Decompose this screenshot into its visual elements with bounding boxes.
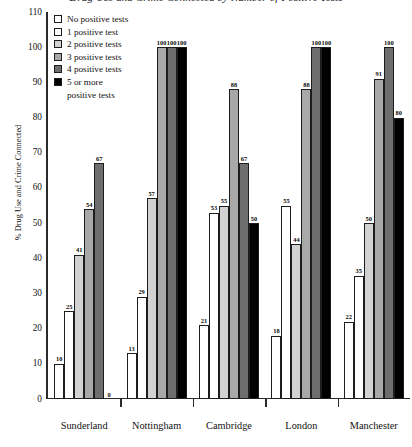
y-tick-label: 40 [14, 254, 42, 263]
bar[interactable] [394, 118, 404, 399]
bar[interactable] [167, 47, 177, 399]
bar-slot: 29 [137, 12, 147, 399]
bar[interactable] [219, 206, 229, 400]
bar-value-label: 29 [138, 288, 144, 295]
x-tick-mark [193, 398, 194, 407]
bar-value-label: 55 [221, 197, 227, 204]
bar[interactable] [374, 79, 384, 399]
y-tick-label: 90 [14, 78, 42, 87]
legend-item[interactable]: 2 positive tests [54, 38, 128, 51]
legend-item[interactable]: 4 positive tests [54, 63, 128, 76]
x-tick-label: Cambridge [193, 420, 265, 431]
bar-value-label: 57 [148, 190, 154, 197]
legend-swatch-icon [54, 15, 62, 23]
bar-slot: 50 [249, 12, 259, 399]
bar-slot: 100 [177, 12, 187, 399]
legend-item[interactable]: No positive tests [54, 13, 128, 26]
bar-value-label: 100 [384, 39, 394, 46]
bar-chart: Drug Use and Crime Connected by Number o… [0, 0, 412, 447]
y-tick-label: 70 [14, 148, 42, 157]
x-tick-label: Manchester [338, 420, 410, 431]
x-tick-mark [265, 398, 266, 407]
bar-slot: 53 [209, 12, 219, 399]
bar[interactable] [54, 364, 64, 399]
bar-value-label: 80 [396, 109, 402, 116]
bar[interactable] [64, 311, 74, 399]
legend-item[interactable]: 1 positive test [54, 26, 128, 39]
bar-value-label: 54 [86, 201, 92, 208]
bar-slot: 67 [239, 12, 249, 399]
bar-slot: 35 [354, 12, 364, 399]
bar[interactable] [249, 223, 259, 399]
bar[interactable] [384, 47, 394, 399]
bar-value-label: 41 [76, 246, 82, 253]
bar[interactable] [229, 89, 239, 399]
bar[interactable] [321, 47, 331, 399]
bar-value-label: 50 [366, 215, 372, 222]
legend-item[interactable]: 5 or more [54, 76, 128, 89]
bar-value-label: 10 [56, 355, 62, 362]
bar-slot: 100 [157, 12, 167, 399]
bar[interactable] [364, 223, 374, 399]
x-tick-label: Nottingham [120, 420, 192, 431]
y-tick-label: 80 [14, 113, 42, 122]
bar-value-label: 13 [128, 345, 134, 352]
legend-swatch-icon [54, 40, 62, 48]
bar[interactable] [177, 47, 187, 399]
x-tick-mark [338, 398, 339, 407]
y-tick-label: 10 [14, 359, 42, 368]
bar-slot: 91 [374, 12, 384, 399]
bar-slot: 55 [281, 12, 291, 399]
bar[interactable] [209, 213, 219, 399]
bar[interactable] [311, 47, 321, 399]
bar-value-label: 53 [211, 204, 217, 211]
legend-item-label: 4 positive tests [67, 63, 122, 76]
bar-group: 132957100100100 [120, 12, 192, 399]
bar-value-label: 44 [293, 236, 299, 243]
legend-swatch-icon [54, 28, 62, 36]
bar[interactable] [127, 353, 137, 399]
legend-swatch-icon [54, 78, 62, 86]
bar[interactable] [281, 206, 291, 400]
bar[interactable] [137, 297, 147, 399]
bar-group: 2235509110080 [338, 12, 410, 399]
legend-item-label: 5 or more [67, 76, 103, 89]
y-tick-label: 60 [14, 183, 42, 192]
y-tick-label: 20 [14, 324, 42, 333]
bar[interactable] [84, 209, 94, 399]
legend-swatch-icon [54, 53, 62, 61]
bar-value-label: 0 [108, 391, 111, 398]
chart-title: Drug Use and Crime Connected by Number o… [0, 0, 412, 3]
bar-group: 18554488100100 [265, 12, 337, 399]
bar[interactable] [344, 322, 354, 399]
bar[interactable] [301, 89, 311, 399]
bar-value-label: 100 [177, 39, 187, 46]
x-tick-label: Sunderland [48, 420, 120, 431]
bar-value-label: 35 [356, 267, 362, 274]
bar[interactable] [354, 276, 364, 399]
bar[interactable] [199, 325, 209, 399]
bar[interactable] [94, 163, 104, 399]
bar[interactable] [157, 47, 167, 399]
bar-slot: 100 [167, 12, 177, 399]
bar[interactable] [291, 244, 301, 399]
y-tick-label: 100 [14, 43, 42, 52]
legend-item[interactable]: 3 positive tests [54, 51, 128, 64]
bar-value-label: 100 [167, 39, 177, 46]
bar-slot: 57 [147, 12, 157, 399]
bar-value-label: 25 [66, 303, 72, 310]
bar-slot: 88 [229, 12, 239, 399]
x-tick-label: London [265, 420, 337, 431]
legend-swatch-icon [54, 65, 62, 73]
bar[interactable] [147, 198, 157, 399]
bar-value-label: 67 [96, 155, 102, 162]
bar-value-label: 67 [241, 155, 247, 162]
bar-slot: 100 [321, 12, 331, 399]
bar[interactable] [74, 255, 84, 399]
bar[interactable] [239, 163, 249, 399]
bar[interactable] [271, 336, 281, 399]
bar-slot: 22 [344, 12, 354, 399]
bar-group: 215355886750 [193, 12, 265, 399]
bar-slot: 100 [384, 12, 394, 399]
legend-item-label: 1 positive test [67, 26, 118, 39]
